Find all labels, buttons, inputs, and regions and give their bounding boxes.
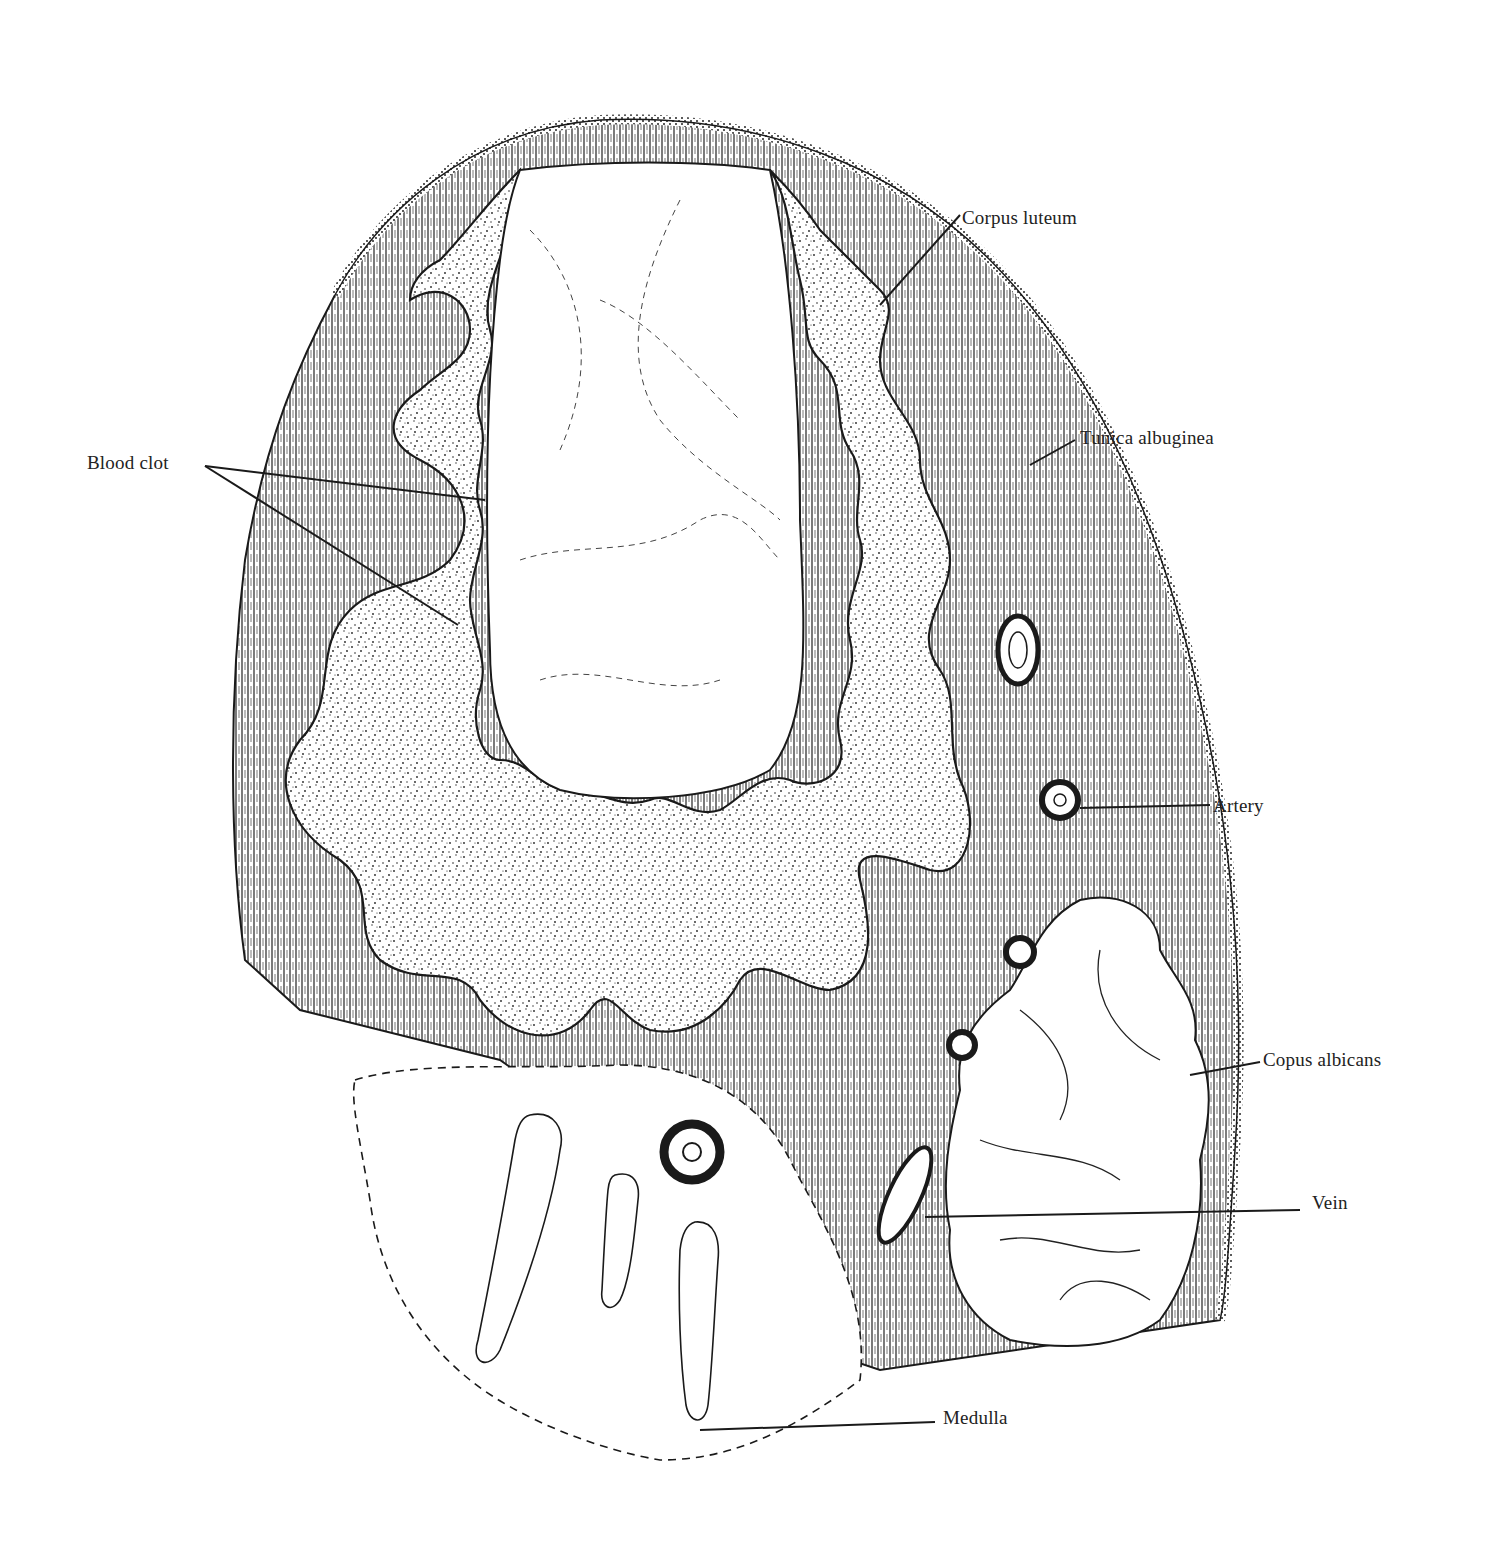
label-corpus-albicans: Copus albicans: [1263, 1050, 1381, 1069]
label-tunica-albuginea: Tunica albuginea: [1080, 428, 1214, 447]
label-blood-clot: Blood clot: [87, 453, 169, 472]
small-artery-2: [949, 1032, 975, 1058]
label-vein: Vein: [1312, 1193, 1348, 1212]
blood-clot: [487, 163, 803, 799]
artery-upper: [998, 616, 1038, 684]
label-corpus-luteum: Corpus luteum: [962, 208, 1077, 227]
small-artery-1: [1006, 938, 1034, 966]
medulla-artery: [664, 1124, 720, 1180]
artery-vessel: [1042, 782, 1078, 818]
label-medulla: Medulla: [943, 1408, 1008, 1427]
ovary-diagram: [0, 0, 1503, 1561]
label-artery: Artery: [1213, 796, 1264, 815]
